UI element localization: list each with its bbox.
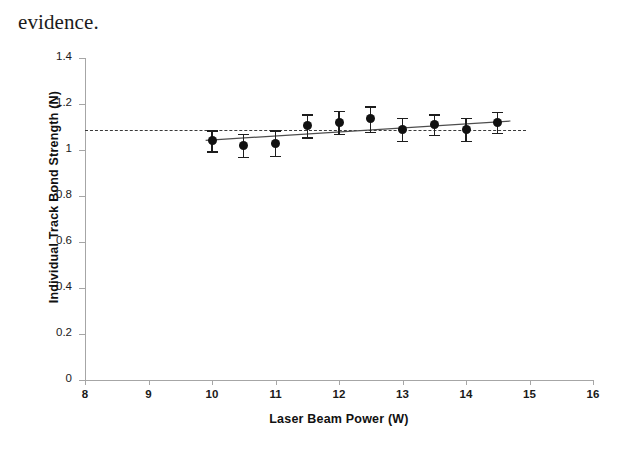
error-bar-cap bbox=[429, 135, 440, 136]
data-point bbox=[208, 136, 217, 145]
error-bar-cap bbox=[207, 151, 218, 152]
error-bar-cap bbox=[365, 132, 376, 133]
error-bar-cap bbox=[270, 156, 281, 157]
body-paragraph: evidence. bbox=[18, 10, 99, 35]
data-point bbox=[271, 139, 280, 148]
x-axis-title: Laser Beam Power (W) bbox=[85, 412, 593, 426]
error-bar-cap bbox=[334, 111, 345, 112]
error-bar-cap bbox=[270, 130, 281, 131]
error-bar-cap bbox=[492, 112, 503, 113]
error-bar-cap bbox=[461, 141, 472, 142]
data-point bbox=[303, 121, 312, 130]
y-axis-title: Individual Track Bond Strength (N) bbox=[47, 47, 61, 347]
data-point bbox=[430, 120, 439, 129]
page-root: evidence. 00.20.40.60.811.21.4 891011121… bbox=[0, 0, 629, 450]
error-bar-cap bbox=[238, 134, 249, 135]
chart-figure: 00.20.40.60.811.21.4 8910111213141516 In… bbox=[0, 40, 629, 450]
plot-area: 00.20.40.60.811.21.4 8910111213141516 In… bbox=[0, 40, 629, 450]
data-series bbox=[0, 40, 629, 450]
error-bar-cap bbox=[334, 134, 345, 135]
error-bar-cap bbox=[461, 118, 472, 119]
data-point bbox=[239, 141, 248, 150]
data-point bbox=[366, 114, 375, 123]
error-bar-cap bbox=[238, 157, 249, 158]
error-bar-cap bbox=[207, 130, 218, 131]
data-point bbox=[335, 118, 344, 127]
error-bar-cap bbox=[397, 118, 408, 119]
data-point bbox=[462, 125, 471, 134]
error-bar-cap bbox=[397, 141, 408, 142]
error-bar-cap bbox=[429, 114, 440, 115]
data-point bbox=[398, 125, 407, 134]
error-bar-cap bbox=[492, 133, 503, 134]
error-bar-cap bbox=[302, 137, 313, 138]
error-bar-cap bbox=[302, 114, 313, 115]
data-point bbox=[493, 118, 502, 127]
error-bar-cap bbox=[365, 106, 376, 107]
